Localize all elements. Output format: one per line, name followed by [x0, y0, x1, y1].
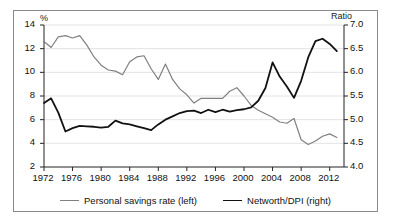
left-axis-tick-label: 10 — [19, 65, 35, 76]
right-axis-tick-label: 6.5 — [350, 42, 370, 53]
x-axis-tick-label: 1972 — [28, 172, 58, 183]
x-axis-tick-label: 1984 — [114, 172, 144, 183]
right-axis-tick-label: 4.0 — [350, 160, 370, 171]
x-axis-tick-label: 1976 — [57, 172, 87, 183]
x-axis-tick-label: 2008 — [285, 172, 315, 183]
right-axis-tick-label: 4.5 — [350, 136, 370, 147]
left-axis-tick-label: 4 — [19, 136, 35, 147]
right-axis-tick-label: 5.0 — [350, 113, 370, 124]
x-axis-tick-label: 1980 — [85, 172, 115, 183]
chart-legend: Personal savings rate (left) Networth/DP… — [13, 190, 378, 210]
left-axis-tick-label: 14 — [19, 18, 35, 29]
right-axis-tick-label: 6.0 — [350, 65, 370, 76]
legend-item-personal-savings-rate: Personal savings rate (left) — [60, 195, 197, 206]
x-axis-tick-label: 2012 — [314, 172, 344, 183]
legend-label-savings: Personal savings rate (left) — [84, 195, 197, 206]
legend-label-networth: Networth/DPI (right) — [247, 195, 331, 206]
right-axis-unit-label: Ratio — [331, 11, 352, 21]
x-axis-tick-label: 2000 — [228, 172, 258, 183]
x-axis-tick-label: 2004 — [257, 172, 287, 183]
chart-figure: % Ratio 2468101214 4.04.55.05.56.06.57.0… — [0, 0, 396, 222]
right-axis-tick-label: 5.5 — [350, 89, 370, 100]
legend-line-icon-networth — [223, 200, 242, 201]
left-axis-tick-label: 12 — [19, 42, 35, 53]
series-line-0 — [44, 36, 337, 145]
series-line-1 — [44, 39, 337, 132]
x-axis-tick-label: 1988 — [142, 172, 172, 183]
left-axis-tick-label: 6 — [19, 113, 35, 124]
left-axis-tick-label: 2 — [19, 160, 35, 171]
x-axis-tick-label: 1996 — [199, 172, 229, 183]
legend-line-icon-savings — [60, 200, 79, 201]
right-axis-tick-label: 7.0 — [350, 18, 370, 29]
left-axis-unit-label: % — [40, 13, 48, 23]
x-axis-tick-label: 1992 — [171, 172, 201, 183]
legend-item-networth-dpi: Networth/DPI (right) — [223, 195, 331, 206]
left-axis-tick-label: 8 — [19, 89, 35, 100]
